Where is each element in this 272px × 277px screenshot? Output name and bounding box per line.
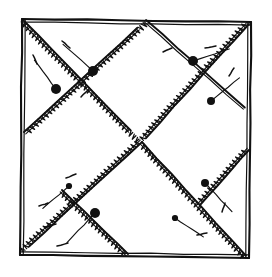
pin-head — [207, 97, 215, 105]
pin-head — [88, 66, 98, 76]
pin-head — [201, 179, 209, 187]
pin-head — [90, 208, 100, 218]
pin-head — [51, 84, 61, 94]
pin-head — [172, 215, 178, 221]
pin-head — [188, 56, 198, 66]
pin-head — [66, 183, 72, 189]
quilt-block-sketch: Hand-drawn quilt block diagram — [0, 0, 272, 277]
